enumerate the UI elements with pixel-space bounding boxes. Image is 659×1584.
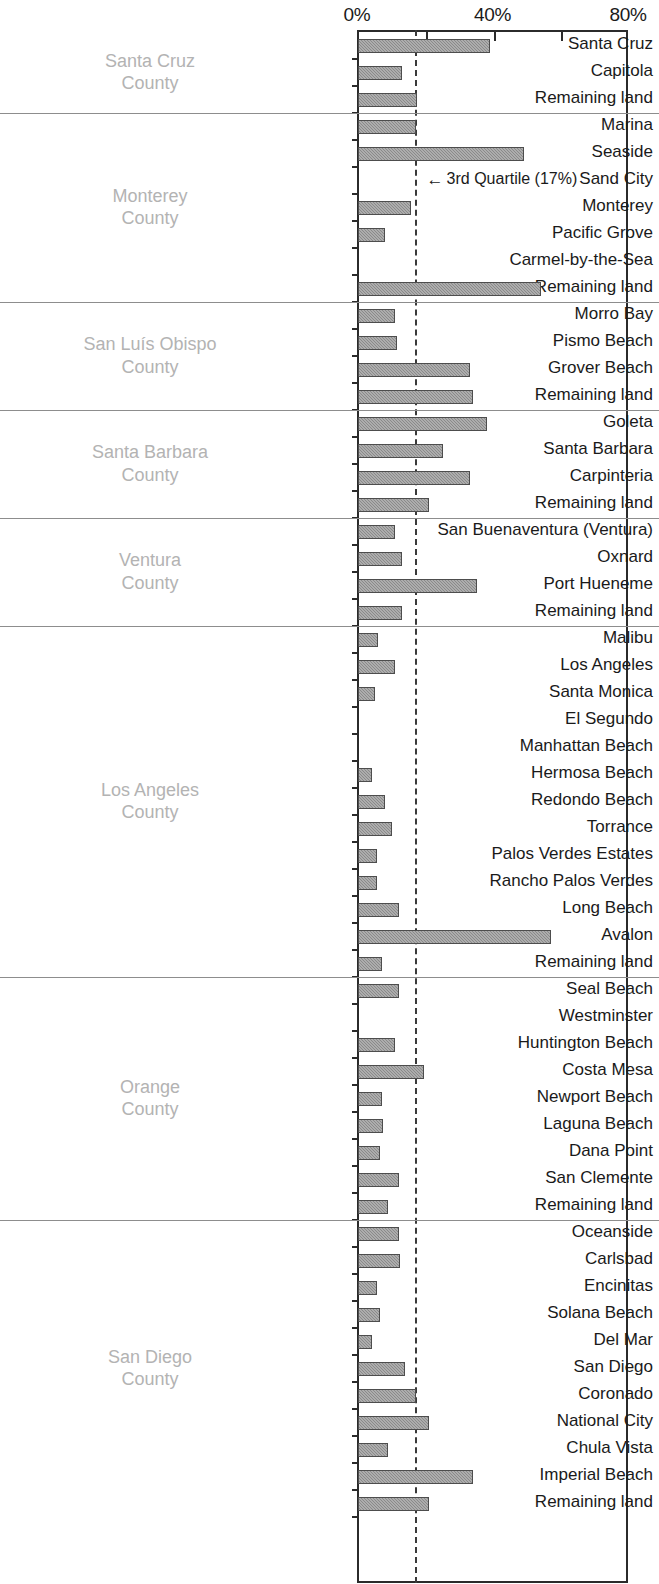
bar	[358, 282, 541, 296]
bar	[358, 768, 372, 782]
bar	[358, 390, 473, 404]
bar	[358, 1362, 405, 1376]
county-group-separator	[0, 410, 659, 411]
bar	[358, 1038, 395, 1052]
county-group-separator	[0, 113, 659, 114]
bar-row: Remaining land	[0, 275, 659, 302]
bar-row: Manhattan Beach	[0, 734, 659, 761]
county-group-label: Ventura County	[0, 549, 300, 594]
bar-row: Malibu	[0, 626, 659, 653]
bar-row: Imperial Beach	[0, 1463, 659, 1490]
y-axis-tick-mark	[352, 1516, 359, 1518]
bar-row: Avalon	[0, 923, 659, 950]
bar	[358, 1200, 388, 1214]
bar	[358, 309, 395, 323]
bar	[358, 795, 385, 809]
bar	[358, 660, 395, 674]
bar	[358, 876, 377, 890]
bar-row: National City	[0, 1409, 659, 1436]
bar-row: Carmel-by-the-Sea	[0, 248, 659, 275]
bar-row: Encinitas	[0, 1274, 659, 1301]
bar	[358, 93, 417, 107]
bar-row: Carlsbad	[0, 1247, 659, 1274]
bar-row-label: El Segundo	[306, 710, 659, 727]
bar	[358, 39, 490, 53]
bar	[358, 1443, 388, 1457]
bar	[358, 1416, 429, 1430]
bar	[358, 984, 399, 998]
bar	[358, 1335, 372, 1349]
county-group-label: San Diego County	[0, 1346, 300, 1391]
bar	[358, 444, 443, 458]
chart-root: 0%40%80% ← 3rd Quartile (17%) Santa Cruz…	[0, 0, 659, 1584]
county-group-separator	[0, 1220, 659, 1221]
bar	[358, 228, 385, 242]
bar	[358, 1389, 416, 1403]
bar	[358, 1146, 380, 1160]
bar-row: Palos Verdes Estates	[0, 842, 659, 869]
bar	[358, 1281, 377, 1295]
bar-row: Marina	[0, 113, 659, 140]
bar	[358, 498, 429, 512]
bar-row: Westminster	[0, 1004, 659, 1031]
bar-row-label: Manhattan Beach	[306, 737, 659, 754]
bar	[358, 633, 378, 647]
county-group-label: Santa Barbara County	[0, 441, 300, 486]
bar	[358, 1065, 424, 1079]
bar-row: Rancho Palos Verdes	[0, 869, 659, 896]
bar	[358, 1497, 429, 1511]
bar-row-label: Sand City	[306, 170, 659, 187]
bar	[358, 363, 470, 377]
bar	[358, 1173, 399, 1187]
bar-row: Solana Beach	[0, 1301, 659, 1328]
county-group-label: San Luís Obispo County	[0, 333, 300, 378]
bar-row: Dana Point	[0, 1139, 659, 1166]
bar-row: Seaside	[0, 140, 659, 167]
bar-row: Remaining land	[0, 1490, 659, 1517]
bar	[358, 336, 397, 350]
bar-row: Seal Beach	[0, 977, 659, 1004]
bar	[358, 1227, 399, 1241]
bar	[358, 1470, 473, 1484]
county-group-separator	[0, 302, 659, 303]
bar-row: San Buenaventura (Ventura)	[0, 518, 659, 545]
county-group-separator	[0, 626, 659, 627]
bar-row: Remaining land	[0, 491, 659, 518]
county-group-label: Orange County	[0, 1076, 300, 1121]
bar-row: Huntington Beach	[0, 1031, 659, 1058]
x-axis-tick-label: 40%	[474, 4, 511, 26]
bar-row: Goleta	[0, 410, 659, 437]
bar-row: Oceanside	[0, 1220, 659, 1247]
bar-row-label: Westminster	[306, 1007, 659, 1024]
bar-row: Remaining land	[0, 599, 659, 626]
bar	[358, 552, 402, 566]
bar	[358, 1308, 380, 1322]
bar	[358, 822, 392, 836]
bar-row: Los Angeles	[0, 653, 659, 680]
bar-row: Long Beach	[0, 896, 659, 923]
bar-row: El Segundo	[0, 707, 659, 734]
county-group-label: Santa Cruz County	[0, 50, 300, 95]
bar-row: Remaining land	[0, 383, 659, 410]
x-axis-tick-label: 0%	[344, 4, 371, 26]
bar	[358, 687, 375, 701]
x-axis-header: 0%40%80%	[0, 0, 659, 30]
bar	[358, 201, 411, 215]
bar	[358, 1119, 383, 1133]
bar	[358, 957, 382, 971]
x-axis-tick-label: 80%	[609, 4, 646, 26]
bar	[358, 1092, 382, 1106]
bar	[358, 525, 395, 539]
bar	[358, 471, 470, 485]
bar-row: Chula Vista	[0, 1436, 659, 1463]
county-group-separator	[0, 518, 659, 519]
bar-row-label: Carmel-by-the-Sea	[306, 251, 659, 268]
bar-row: Morro Bay	[0, 302, 659, 329]
bar	[358, 417, 487, 431]
bar-row: Remaining land	[0, 950, 659, 977]
bar	[358, 579, 477, 593]
bar	[358, 66, 402, 80]
bar-row: Remaining land	[0, 1193, 659, 1220]
bar	[358, 606, 402, 620]
bar	[358, 1254, 400, 1268]
